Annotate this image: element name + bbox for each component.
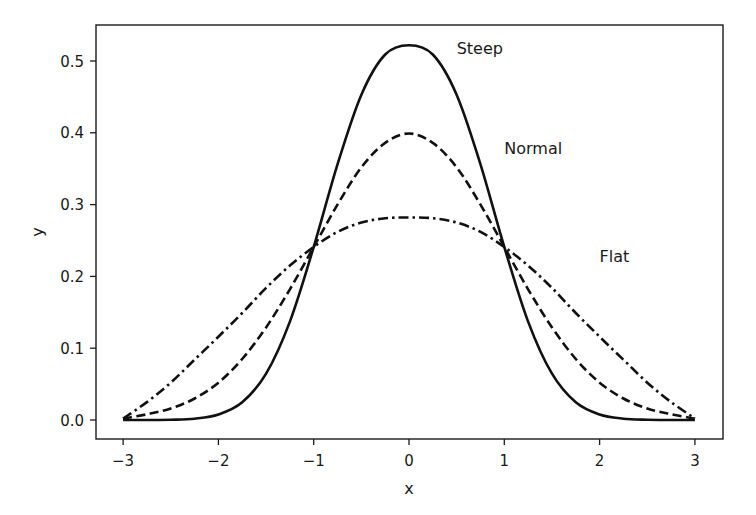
y-tick-label: 0.4 [60, 124, 84, 142]
y-tick-label: 0.3 [60, 196, 84, 214]
plot-background [96, 25, 723, 439]
y-axis-ticks: 0.00.10.20.30.40.5 [60, 53, 96, 430]
x-tick-label: 0 [404, 452, 414, 470]
x-tick-label: 1 [500, 452, 510, 470]
x-axis-label: x [404, 479, 413, 498]
x-tick-label: 2 [595, 452, 605, 470]
y-tick-label: 0.2 [60, 268, 84, 286]
x-tick-label: −3 [112, 452, 134, 470]
y-tick-label: 0.1 [60, 340, 84, 358]
x-tick-label: −2 [207, 452, 229, 470]
annotation-normal: Normal [504, 139, 562, 158]
x-tick-label: 3 [690, 452, 700, 470]
annotation-flat: Flat [600, 247, 630, 266]
y-tick-label: 0.5 [60, 53, 84, 71]
y-axis-label: y [28, 227, 47, 236]
x-axis-ticks: −3−2−10123 [112, 439, 700, 470]
line-chart: −3−2−10123 0.00.10.20.30.40.5 x y SteepN… [0, 0, 756, 515]
annotation-steep: Steep [457, 39, 503, 58]
y-tick-label: 0.0 [60, 412, 84, 430]
x-tick-label: −1 [303, 452, 325, 470]
